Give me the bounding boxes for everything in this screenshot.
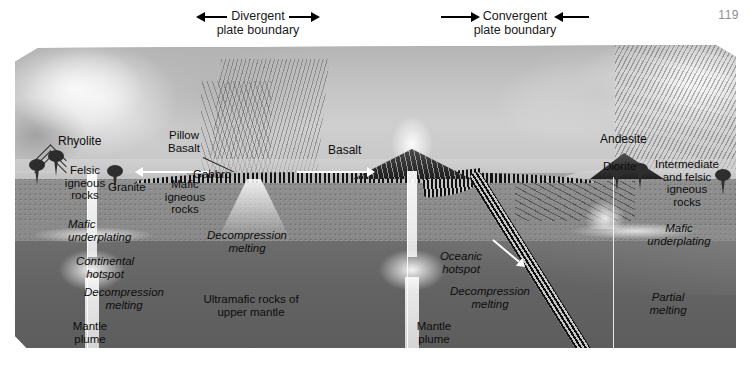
rock-marker-stem: [615, 174, 619, 191]
label-rhyolite: Rhyolite: [58, 135, 101, 148]
divergent-label-line1: Divergent: [196, 9, 320, 23]
label-ultramafic-rocks: Ultramafic rocks of upper mantle: [188, 293, 314, 318]
label-oceanic-hotspot: Oceanic hotspot: [430, 250, 492, 275]
arc-magma-chamber: [575, 177, 635, 229]
divergent-boundary-label: Divergent plate boundary: [196, 9, 320, 37]
convergent-boundary-label: Convergent plate boundary: [441, 9, 589, 37]
label-mafic-igneous-rocks: Mafic igneous rocks: [160, 178, 210, 216]
rock-marker-stem: [638, 172, 642, 189]
guide-line-arc: [613, 177, 614, 348]
label-intermediate-felsic-igneous-rocks: Intermediate and felsic igneous rocks: [648, 158, 726, 208]
label-granite: Granite: [108, 181, 146, 194]
label-decompression-melting-oceanic: Decompression melting: [438, 285, 542, 310]
spreading-arrow-right-tip: [367, 167, 375, 177]
label-decompression-melting-left: Decompression melting: [72, 286, 176, 311]
label-continental-hotspot: Continental hotspot: [62, 255, 148, 280]
label-diorite: Diorite: [603, 160, 636, 173]
spreading-arrow-right-bar: [297, 171, 367, 173]
convergent-label-line1: Convergent: [441, 9, 589, 23]
label-partial-melting: Partial melting: [634, 291, 702, 316]
label-mafic-underplating-right: Mafic underplating: [632, 222, 726, 247]
label-felsic-igneous-rocks: Felsic igneous rocks: [56, 164, 114, 202]
spreading-arrow-left-tip: [135, 167, 143, 177]
label-pillow-basalt: Pillow Basalt: [156, 129, 212, 154]
spreading-arrow-right: [297, 167, 375, 177]
page-number: 119: [718, 8, 739, 22]
label-andesite: Andesite: [600, 133, 647, 146]
label-decompression-melting-ridge: Decompression melting: [196, 229, 298, 254]
label-basalt: Basalt: [328, 144, 361, 157]
label-mantle-plume-right: Mantle plume: [406, 320, 462, 345]
volcanic-arc-terrain-texture: [615, 45, 736, 173]
divergent-label-line2: plate boundary: [196, 23, 320, 37]
geologic-block-diagram-figure: 119 Divergent plate boundary Convergent …: [0, 0, 751, 365]
convergent-label-line2: plate boundary: [441, 23, 589, 37]
label-mantle-plume-left: Mantle plume: [62, 320, 118, 345]
label-mafic-underplating-left: Mafic underplating: [68, 218, 131, 243]
